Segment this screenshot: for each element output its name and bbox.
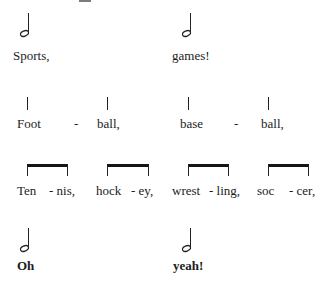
lyric-syllable: wrest: [172, 184, 200, 198]
half-note-icon: [181, 13, 193, 38]
lyric-syllable: games!: [172, 49, 210, 63]
lyric-syllable: soc: [257, 184, 274, 198]
half-note-icon: [19, 228, 31, 253]
lyric-syllable: base: [180, 117, 203, 131]
lyric-syllable: Foot: [17, 117, 41, 131]
lyric-syllable: ball,: [97, 117, 120, 131]
lyric-syllable: - nis,: [49, 184, 75, 198]
lyric-syllable: hock: [96, 184, 121, 198]
cropped-note-fragment: [79, 0, 91, 2]
note-stem-icon: [27, 97, 28, 110]
half-note-icon: [19, 13, 31, 38]
lyric-syllable: - ling,: [209, 184, 240, 198]
note-stem-icon: [188, 97, 189, 110]
note-stem-icon: [107, 97, 108, 110]
lyric-syllable: ball,: [261, 117, 284, 131]
lyric-hyphen: -: [74, 117, 78, 131]
note-stem-icon: [268, 97, 269, 110]
lyric-syllable: - ey,: [131, 184, 153, 198]
lyric-hyphen: -: [234, 117, 238, 131]
lyric-syllable: - cer,: [289, 184, 315, 198]
lyric-syllable: Sports,: [13, 49, 49, 63]
lyric-syllable: Ten: [17, 184, 36, 198]
lyric-syllable: yeah!: [173, 259, 203, 273]
half-note-icon: [181, 228, 193, 253]
lyric-syllable: Oh: [17, 259, 34, 273]
